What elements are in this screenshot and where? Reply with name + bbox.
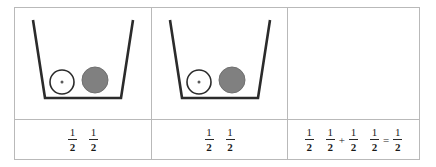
fraction-denominator: 2 [90,141,98,153]
fraction-denominator: 2 [205,141,213,153]
fraction-expression-2: 1 2 1 2 [202,127,238,153]
cell-first-addend-illustration [15,8,151,119]
fraction-numerator: 1 [371,127,379,139]
cup-with-two-counters-2 [157,14,283,114]
cup-outline-path [33,20,133,98]
fraction: 1 2 [89,127,98,153]
fraction-numerator: 1 [394,127,402,139]
fraction-numerator: 1 [90,127,98,139]
cell-sum-math: 1 2 1 2 + 1 2 [287,120,419,159]
counter-filled-icon [82,67,108,93]
figure-canvas: 1 2 1 2 1 [0,0,436,167]
fraction-numerator: 1 [350,127,358,139]
fraction: 1 2 [68,127,77,153]
cell-first-addend-math: 1 2 1 2 [15,120,151,159]
fraction-denominator: 2 [327,141,335,153]
fraction-equation: 1 2 1 2 + 1 2 [302,127,405,153]
fraction: 1 2 [326,127,335,153]
fraction-numerator: 1 [306,127,314,139]
fraction-denominator: 2 [394,141,402,153]
cup-illustration-svg [157,14,283,114]
fraction: 1 2 [370,127,379,153]
fraction: 1 2 [226,127,235,153]
fraction-numerator: 1 [205,127,213,139]
fraction-numerator: 1 [69,127,77,139]
table-row: 1 2 1 2 1 [15,119,419,159]
fraction-denominator: 2 [350,141,358,153]
cell-sum-illustration-empty [287,8,419,119]
counter-open-center-dot-icon [197,80,200,83]
fraction-expression-1: 1 2 1 2 [65,127,101,153]
fraction-numerator: 1 [226,127,234,139]
counter-filled-icon [219,67,245,93]
cup-outline-path [170,20,270,98]
equals-operator: = [383,134,389,146]
fraction-denominator: 2 [69,141,77,153]
cup-illustration-svg [20,14,146,114]
fraction: 1 2 [305,127,314,153]
plus-operator: + [339,134,345,146]
cup-with-two-counters-1 [20,14,146,114]
cell-second-addend-illustration [151,8,287,119]
fraction: 1 2 [349,127,358,153]
counter-open-center-dot-icon [61,80,64,83]
fraction-numerator: 1 [327,127,335,139]
fraction: 1 2 [205,127,214,153]
table-row [15,8,419,119]
fraction: 1 2 [393,127,402,153]
cell-second-addend-math: 1 2 1 2 [151,120,287,159]
fraction-denominator: 2 [226,141,234,153]
fraction-model-table: 1 2 1 2 1 [14,7,420,160]
fraction-denominator: 2 [306,141,314,153]
fraction-denominator: 2 [371,141,379,153]
